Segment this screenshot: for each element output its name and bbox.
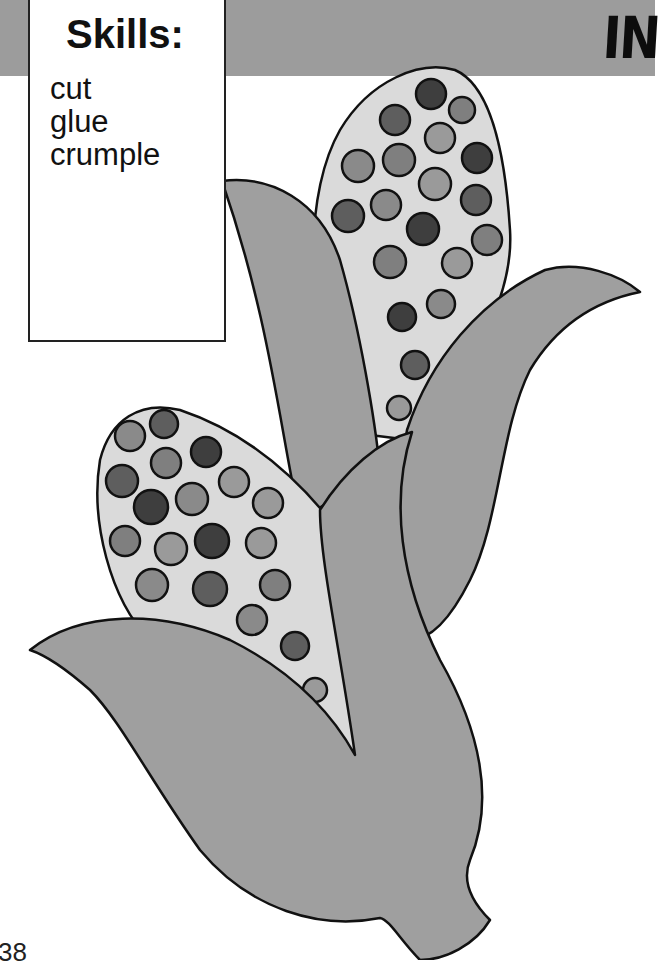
skill-item: cut [50,72,160,105]
skills-list: cut glue crumple [50,72,160,171]
skill-item: crumple [50,138,160,171]
skills-box: Skills: cut glue crumple [28,0,226,342]
skills-title: Skills: [66,12,184,57]
page-number: 38 [0,937,27,965]
skill-item: glue [50,105,160,138]
